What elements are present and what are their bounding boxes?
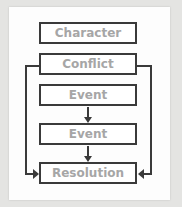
arrow-left-icon [138,169,144,179]
node-character: Character [39,22,137,44]
node-label: Conflict [62,57,113,71]
node-event-1: Event [39,84,137,106]
node-label: Resolution [52,166,124,180]
right-connector-line [137,66,151,174]
node-label: Character [55,26,121,40]
left-connector-line [26,66,39,174]
node-resolution: Resolution [39,162,137,184]
node-conflict: Conflict [39,53,137,75]
node-event-2: Event [39,123,137,145]
node-label: Event [69,127,107,141]
node-label: Event [69,88,107,102]
